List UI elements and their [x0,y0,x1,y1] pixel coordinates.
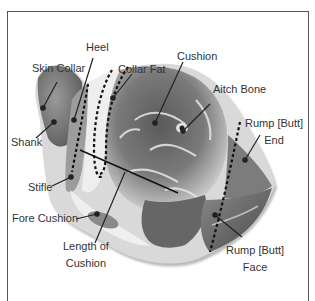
label-heel: Heel [86,41,109,54]
label-rump-face-line1: Rump [Butt] [226,244,284,257]
label-stifle: Stifle [28,181,52,194]
label-cushion: Cushion [177,50,217,63]
label-rump-end-line1: Rump [Butt] [245,117,303,130]
label-length-of-cushion: Length of Cushion [63,240,109,270]
label-rump-face-line2: Face [226,261,284,274]
label-length-of-cushion-line2: Cushion [63,257,109,270]
label-shank: Shank [11,136,42,149]
label-rump-end: Rump [Butt] End [245,117,303,147]
label-rump-end-line2: End [245,134,303,147]
label-length-of-cushion-line1: Length of [63,240,109,253]
label-skin-collar: Skin Collar [32,62,85,75]
label-fore-cushion: Fore Cushion [12,212,78,225]
label-rump-face: Rump [Butt] Face [226,244,284,274]
label-collar-fat: Collar Fat [118,63,166,76]
label-aitch-bone: Aitch Bone [213,83,266,96]
